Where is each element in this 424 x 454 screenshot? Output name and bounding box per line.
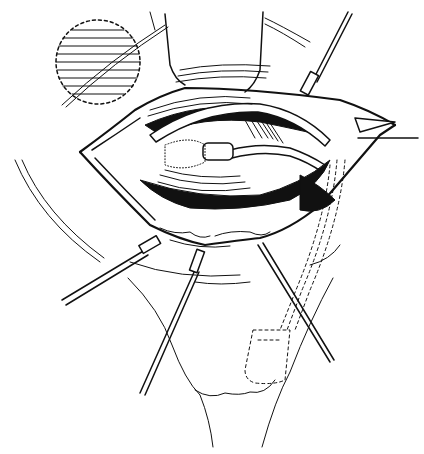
surgical-illustration [0,0,424,454]
vessels [148,65,330,191]
pointer-arrow [355,118,418,138]
upper-organ [150,12,310,92]
retractor-lower-center [140,249,205,395]
retractor-lower-left [62,236,161,305]
retractor-upper-right [300,12,352,95]
illustration-svg [0,0,424,454]
inset-circle [56,20,168,107]
catheter-tip [203,143,233,160]
